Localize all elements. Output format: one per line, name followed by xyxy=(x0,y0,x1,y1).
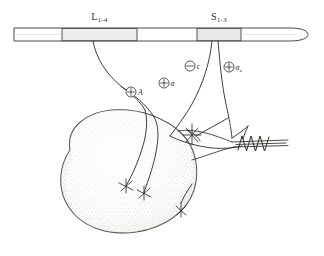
segment-S1-3-block xyxy=(197,28,241,40)
segment-L1-4[interactable]: L1-4 xyxy=(62,11,137,41)
figure-root: L1-4 S1-3 xyxy=(0,0,324,256)
sign-plus-A-label: A xyxy=(137,88,143,97)
sign-minus-c-label: c xyxy=(197,62,201,71)
segment-L1-4-label: L1-4 xyxy=(91,11,108,23)
nerve-path-spindle-afferent xyxy=(196,118,228,136)
segment-S1-3[interactable]: S1-3 xyxy=(197,11,241,41)
sign-plus-alpha-1[interactable]: α xyxy=(159,78,176,88)
muscle-belly xyxy=(56,105,206,237)
spinal-cord: L1-4 S1-3 xyxy=(14,11,308,41)
sign-plus-alpha-1-label: α xyxy=(171,79,176,88)
nerve-path-A xyxy=(93,41,145,110)
segment-L1-4-block xyxy=(62,28,137,40)
nerve-path-alpha-2 xyxy=(218,41,232,138)
sign-plus-A[interactable]: A xyxy=(126,87,143,97)
sign-minus-c[interactable]: c xyxy=(185,61,201,71)
spinal-reflex-diagram: L1-4 S1-3 xyxy=(0,0,324,256)
muscle-belly-shading xyxy=(56,105,206,237)
nerve-path-c-descending xyxy=(170,41,212,136)
sign-plus-alpha-2-label: αa xyxy=(236,63,243,73)
sign-plus-alpha-2[interactable]: αa xyxy=(224,62,243,73)
segment-S1-3-label: S1-3 xyxy=(211,11,227,23)
